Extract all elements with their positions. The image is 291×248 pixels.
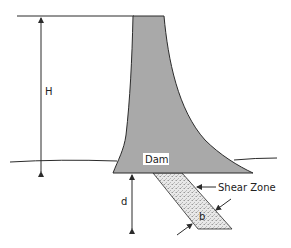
shear-zone-label: Shear Zone (218, 182, 276, 193)
width-label: b (199, 211, 205, 222)
width-arrow-lower (177, 224, 192, 235)
dam-shear-zone-diagram: Dam H d Shear Zone b (0, 0, 291, 248)
dam-body (113, 16, 253, 173)
dam-label: Dam (145, 154, 169, 165)
height-label: H (45, 86, 53, 97)
depth-label: d (121, 196, 127, 207)
ground-line-right (234, 158, 277, 160)
ground-line-left (10, 160, 117, 162)
width-arrow-upper (216, 199, 231, 210)
